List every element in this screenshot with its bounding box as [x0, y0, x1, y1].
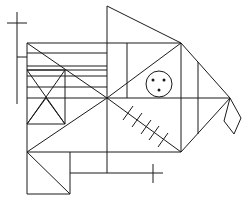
- tick-mark: [141, 120, 151, 134]
- eye-dot: [163, 79, 166, 82]
- eye-circle: [146, 71, 172, 97]
- line-segment: [46, 98, 65, 124]
- eye-dot: [152, 79, 155, 82]
- fish-line-drawing: [0, 0, 248, 207]
- tick-mark: [132, 113, 142, 127]
- eye-outline: [146, 71, 172, 97]
- tick-mark: [158, 133, 168, 147]
- line-segment: [181, 43, 230, 98]
- tick-mark: [123, 106, 133, 120]
- line-segment: [107, 6, 181, 43]
- line-segments: [7, 6, 230, 194]
- eye-dot: [158, 89, 161, 92]
- line-segment: [181, 98, 230, 152]
- line-segment: [107, 43, 181, 98]
- tick-mark: [149, 126, 159, 140]
- diamond-tail: [224, 98, 241, 134]
- line-segment: [107, 98, 181, 152]
- line-segment: [27, 152, 70, 194]
- line-segment: [27, 98, 46, 124]
